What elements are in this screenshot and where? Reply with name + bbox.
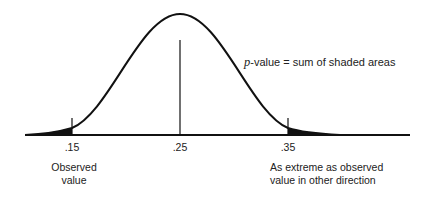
mirror-caption-line2: value in other direction xyxy=(270,174,383,187)
tick-label-mirror: .35 xyxy=(268,141,308,154)
bell-curve xyxy=(25,14,340,135)
annotation-text: -value = sum of shaded areas xyxy=(250,56,395,68)
mirror-caption: As extreme as observed value in other di… xyxy=(270,161,383,187)
tick-label-center: .25 xyxy=(160,141,200,154)
tick-label-observed: .15 xyxy=(52,141,92,154)
p-value-annotation: p-value = sum of shaded areas xyxy=(244,56,395,69)
observed-caption-line2: value xyxy=(50,174,98,187)
observed-caption-line1: Observed xyxy=(50,161,98,174)
observed-caption: Observed value xyxy=(50,161,98,187)
mirror-caption-line1: As extreme as observed xyxy=(270,161,383,174)
